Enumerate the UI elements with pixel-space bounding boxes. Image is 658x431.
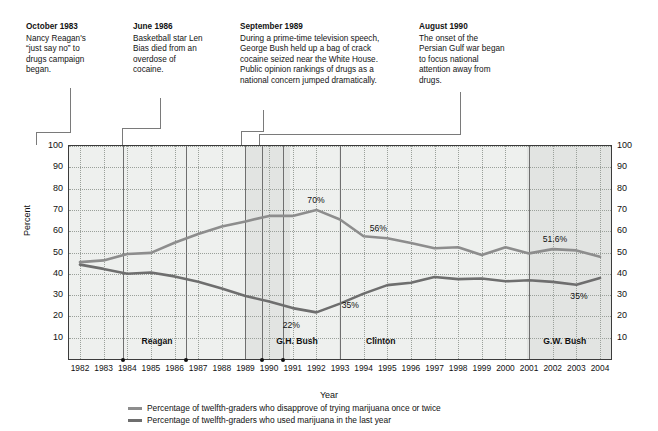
event-marker-dot [121, 358, 125, 362]
x-tick-label: 1984 [114, 363, 140, 373]
y-tick-label: 30 [41, 289, 63, 299]
x-tick-label: 1982 [67, 363, 93, 373]
y-tick-label-right: 20 [617, 310, 639, 320]
y-tick-label-right: 100 [617, 140, 639, 150]
y-tick-label: 80 [41, 183, 63, 193]
y-tick-label-right: 50 [617, 247, 639, 257]
y-tick-label: 100 [41, 140, 63, 150]
x-tick-label: 1987 [185, 363, 211, 373]
president-label: Reagan [141, 336, 172, 346]
annotation-body: Basketball star Len Bias died from an ov… [133, 34, 205, 76]
chart-legend: Percentage of twelfth-graders who disapp… [128, 402, 441, 426]
annotation-body: During a prime-time television speech, G… [240, 34, 390, 87]
y-axis-title: Percent [22, 205, 32, 236]
x-tick-label: 1985 [138, 363, 164, 373]
y-tick-label-right: 70 [617, 204, 639, 214]
x-tick-label: 1986 [162, 363, 188, 373]
x-tick-label: 1988 [209, 363, 235, 373]
x-tick-label: 2002 [540, 363, 566, 373]
x-tick-label: 1989 [232, 363, 258, 373]
x-tick-label: 1996 [398, 363, 424, 373]
y-tick-label: 60 [41, 225, 63, 235]
event-marker-dot [184, 358, 188, 362]
event-marker-dot [260, 358, 264, 362]
x-tick-label: 1993 [327, 363, 353, 373]
x-tick-label: 1994 [351, 363, 377, 373]
x-tick-label: 2004 [587, 363, 613, 373]
y-tick-label-right: 90 [617, 161, 639, 171]
y-tick-label: 10 [41, 332, 63, 342]
data-label: 35% [342, 300, 359, 310]
legend-swatch-used [128, 419, 142, 422]
y-tick-label: 90 [41, 161, 63, 171]
president-label: G.H. Bush [276, 336, 318, 346]
data-label: 56% [370, 223, 387, 233]
x-tick-label: 2000 [492, 363, 518, 373]
legend-swatch-disapprove [128, 407, 142, 410]
y-tick-label: 70 [41, 204, 63, 214]
annotation-body: Nancy Reagan's “just say no” to drugs ca… [26, 34, 98, 76]
annotation-callout-2: June 1986 Basketball star Len Bias died … [133, 22, 205, 76]
legend-item[interactable]: Percentage of twelfth-graders who disapp… [128, 402, 441, 414]
data-label: 35% [570, 291, 587, 301]
y-tick-label: 20 [41, 310, 63, 320]
president-label: Clinton [366, 336, 396, 346]
data-label: 22% [283, 320, 300, 330]
legend-label: Percentage of twelfth-graders who disapp… [147, 403, 441, 413]
plot-area: 70%56%51.6%22%35%35% ReaganG.H. BushClin… [68, 145, 612, 360]
y-tick-label-right: 10 [617, 332, 639, 342]
x-axis-title: Year [320, 390, 338, 400]
annotation-title: August 1990 [419, 22, 505, 33]
chart-figure: October 1983 Nancy Reagan's “just say no… [0, 0, 658, 431]
annotation-title: September 1989 [240, 22, 390, 33]
data-lines [69, 146, 611, 359]
data-label: 51.6% [543, 234, 567, 244]
x-tick-label: 1990 [256, 363, 282, 373]
x-tick-label: 1991 [280, 363, 306, 373]
x-tick-label: 2003 [563, 363, 589, 373]
x-tick-label: 1995 [374, 363, 400, 373]
x-tick-label: 1997 [422, 363, 448, 373]
x-tick-label: 1999 [469, 363, 495, 373]
annotation-body: The onset of the Persian Gulf war began … [419, 34, 505, 87]
annotation-callout-3: September 1989 During a prime-time telev… [240, 22, 390, 87]
x-tick-label: 1992 [303, 363, 329, 373]
line-used [80, 265, 600, 313]
y-tick-label-right: 80 [617, 183, 639, 193]
event-marker-dot [281, 358, 285, 362]
x-tick-label: 1983 [91, 363, 117, 373]
data-label: 70% [307, 195, 324, 205]
president-label: G.W. Bush [543, 336, 586, 346]
x-tick-label: 1998 [445, 363, 471, 373]
y-tick-label: 40 [41, 268, 63, 278]
annotation-callout-4: August 1990 The onset of the Persian Gul… [419, 22, 505, 87]
y-tick-label: 50 [41, 247, 63, 257]
legend-label: Percentage of twelfth-graders who used m… [147, 415, 391, 425]
legend-item[interactable]: Percentage of twelfth-graders who used m… [128, 414, 441, 426]
y-tick-label-right: 40 [617, 268, 639, 278]
y-tick-label-right: 60 [617, 225, 639, 235]
x-tick-label: 2001 [516, 363, 542, 373]
y-tick-label-right: 30 [617, 289, 639, 299]
annotation-title: June 1986 [133, 22, 205, 33]
line-disapprove [80, 210, 600, 262]
annotation-callout-1: October 1983 Nancy Reagan's “just say no… [26, 22, 98, 76]
annotation-title: October 1983 [26, 22, 98, 33]
